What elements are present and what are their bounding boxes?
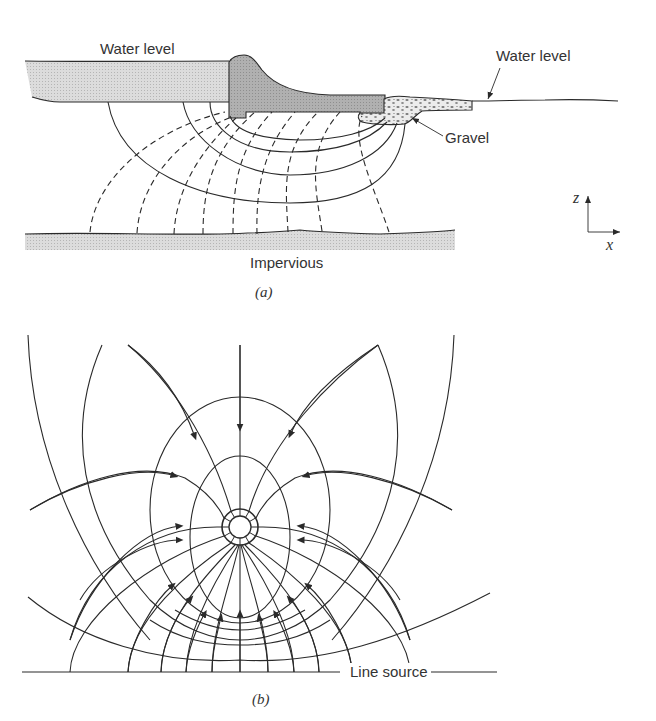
sink-inner-ring	[229, 516, 251, 538]
caption-b: (b)	[252, 691, 270, 708]
equipotential-1	[90, 112, 225, 232]
equipotential-7	[286, 112, 318, 232]
label-gravel: Gravel	[445, 129, 489, 146]
figure-a	[25, 55, 620, 250]
label-x-axis: x	[606, 236, 613, 254]
label-water-level-right: Water level	[496, 47, 570, 64]
equipotential-6	[257, 112, 295, 234]
dam	[229, 55, 385, 118]
label-z-axis: z	[573, 189, 579, 207]
equipotential-3	[174, 118, 236, 234]
caption-a: (a)	[255, 284, 273, 301]
streamline-left-low	[28, 593, 490, 661]
label-water-level-left: Water level	[100, 40, 174, 57]
upstream-water	[25, 61, 229, 102]
figure-b	[22, 335, 497, 672]
figure-canvas	[0, 0, 656, 721]
equipotential-2	[137, 118, 229, 233]
label-line-source: Line source	[347, 663, 431, 680]
equipotential-4	[203, 112, 255, 234]
streamline-top-left	[128, 345, 231, 511]
streamline-top-right	[249, 345, 378, 511]
label-impervious: Impervious	[250, 254, 323, 271]
